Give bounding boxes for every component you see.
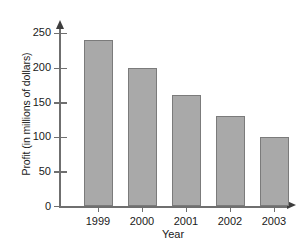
plot-area: 050100150200250 19992000200120022003	[59, 20, 295, 210]
y-tick-mark	[54, 33, 67, 34]
x-axis-title: Year	[59, 228, 287, 240]
x-tick-mark	[98, 206, 99, 212]
x-tick-label: 2003	[252, 214, 296, 228]
bar	[260, 137, 289, 206]
y-tick-mark	[54, 102, 67, 103]
x-tick-mark	[186, 206, 187, 212]
x-tick-label: 2001	[164, 214, 208, 228]
y-tick-label: 150	[33, 95, 51, 109]
x-tick-label: 2002	[208, 214, 252, 228]
x-axis-line	[59, 206, 287, 208]
y-tick-label: 250	[33, 25, 51, 39]
y-tick-mark	[54, 68, 67, 69]
y-tick-label: 200	[33, 60, 51, 74]
y-axis-arrow-icon	[56, 20, 64, 29]
x-tick-mark	[230, 206, 231, 212]
bar	[216, 116, 245, 206]
x-tick-label: 2000	[120, 214, 164, 228]
bar	[172, 95, 201, 206]
bar-chart: Profit (in millions of dollars) 05010015…	[0, 0, 306, 250]
y-axis-line	[59, 28, 61, 206]
bar	[84, 40, 113, 206]
y-tick-mark	[54, 171, 67, 172]
x-tick-mark	[274, 206, 275, 212]
bar	[128, 68, 157, 206]
y-tick-mark	[54, 137, 67, 138]
y-tick-mark	[54, 206, 67, 207]
y-tick-label: 100	[33, 129, 51, 143]
x-tick-label: 1999	[76, 214, 120, 228]
y-tick-label: 50	[39, 164, 51, 178]
y-tick-label: 0	[45, 199, 51, 213]
y-axis-title: Profit (in millions of dollars)	[20, 14, 32, 214]
x-tick-mark	[142, 206, 143, 212]
